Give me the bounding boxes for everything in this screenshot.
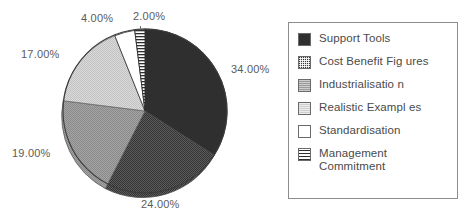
legend-label-cost-benefit-figures: Cost Benefit Fig ures <box>319 55 428 68</box>
legend-swatch-standardisation <box>298 125 311 138</box>
legend-item-realistic-examples: Realistic Exampl es <box>298 101 451 116</box>
legend-item-management-commitment: Management Commitment <box>298 147 451 173</box>
pie-label-support-tools: 34.00% <box>231 64 270 75</box>
chart-legend: Support Tools Cost Benefit Fig ures Indu… <box>288 22 458 199</box>
legend-swatch-industrialisation <box>298 79 311 92</box>
legend-label-realistic-examples: Realistic Exampl es <box>319 101 421 114</box>
legend-item-support-tools: Support Tools <box>298 32 451 47</box>
legend-item-list: Support Tools Cost Benefit Fig ures Indu… <box>298 32 451 173</box>
legend-item-standardisation: Standardisation <box>298 124 451 139</box>
legend-item-cost-benefit-figures: Cost Benefit Fig ures <box>298 55 451 70</box>
pie-chart-figure: 34.00% 24.00% 19.00% 17.00% 4.00% 2.00% … <box>0 0 473 223</box>
legend-swatch-support-tools <box>298 33 311 46</box>
pie-label-industrialisation: 19.00% <box>12 148 51 159</box>
legend-swatch-cost-benefit-figures <box>298 56 311 69</box>
legend-label-industrialisation: Industrialisatio n <box>319 78 404 91</box>
legend-label-management-commitment: Management Commitment <box>319 147 387 173</box>
pie-label-realistic-examples: 17.00% <box>21 49 60 60</box>
pie-label-management-commitment: 2.00% <box>133 11 165 22</box>
legend-label-standardisation: Standardisation <box>319 124 400 137</box>
pie-label-standardisation: 4.00% <box>81 13 113 24</box>
pie-label-cost-benefit-figures: 24.00% <box>141 199 180 210</box>
legend-item-industrialisation: Industrialisatio n <box>298 78 451 93</box>
legend-swatch-management-commitment <box>298 148 311 161</box>
legend-swatch-realistic-examples <box>298 102 311 115</box>
pie-chart-svg <box>0 0 285 223</box>
pie-chart-plot-area: 34.00% 24.00% 19.00% 17.00% 4.00% 2.00% <box>0 0 285 223</box>
legend-label-support-tools: Support Tools <box>319 32 390 45</box>
